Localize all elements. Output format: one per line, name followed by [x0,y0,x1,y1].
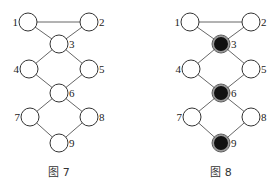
node-3: 3 [50,35,75,53]
node-4: 4 [14,60,39,78]
node-5: 5 [242,60,267,78]
node-label: 3 [69,38,75,50]
node-label: 9 [69,137,75,149]
node-5: 5 [80,60,105,78]
node-label: 7 [15,111,21,123]
node-9: 9 [212,134,237,152]
node-2: 2 [80,13,105,31]
node-8: 8 [242,108,267,126]
node-label: 9 [231,137,237,149]
node-label: 6 [69,87,75,99]
node-2: 2 [242,13,267,31]
node-8: 8 [80,108,105,126]
node-label: 5 [99,63,105,75]
node-label: 8 [99,111,105,123]
node-1: 1 [175,13,200,31]
node-7: 7 [15,108,40,126]
figure-8: 123456789图 8 [175,13,268,179]
node-label: 7 [177,111,183,123]
node-label: 5 [261,63,267,75]
node-label: 4 [14,63,20,75]
node-3: 3 [212,35,237,53]
node-label: 2 [261,16,267,28]
node-label: 8 [261,111,267,123]
node-label: 2 [99,16,105,28]
node-label: 1 [175,16,181,28]
node-7: 7 [177,108,202,126]
node-6: 6 [212,84,237,102]
figure-caption: 图 7 [48,166,70,179]
node-1: 1 [13,13,38,31]
node-label: 3 [231,38,237,50]
node-label: 4 [176,63,182,75]
figure-7: 123456789图 7 [13,13,106,179]
node-4: 4 [176,60,201,78]
node-6: 6 [50,84,75,102]
graph-diagrams: 123456789图 7 123456789图 8 [0,0,276,185]
node-label: 1 [13,16,19,28]
node-label: 6 [231,87,237,99]
figure-caption: 图 8 [210,166,232,179]
node-9: 9 [50,134,75,152]
